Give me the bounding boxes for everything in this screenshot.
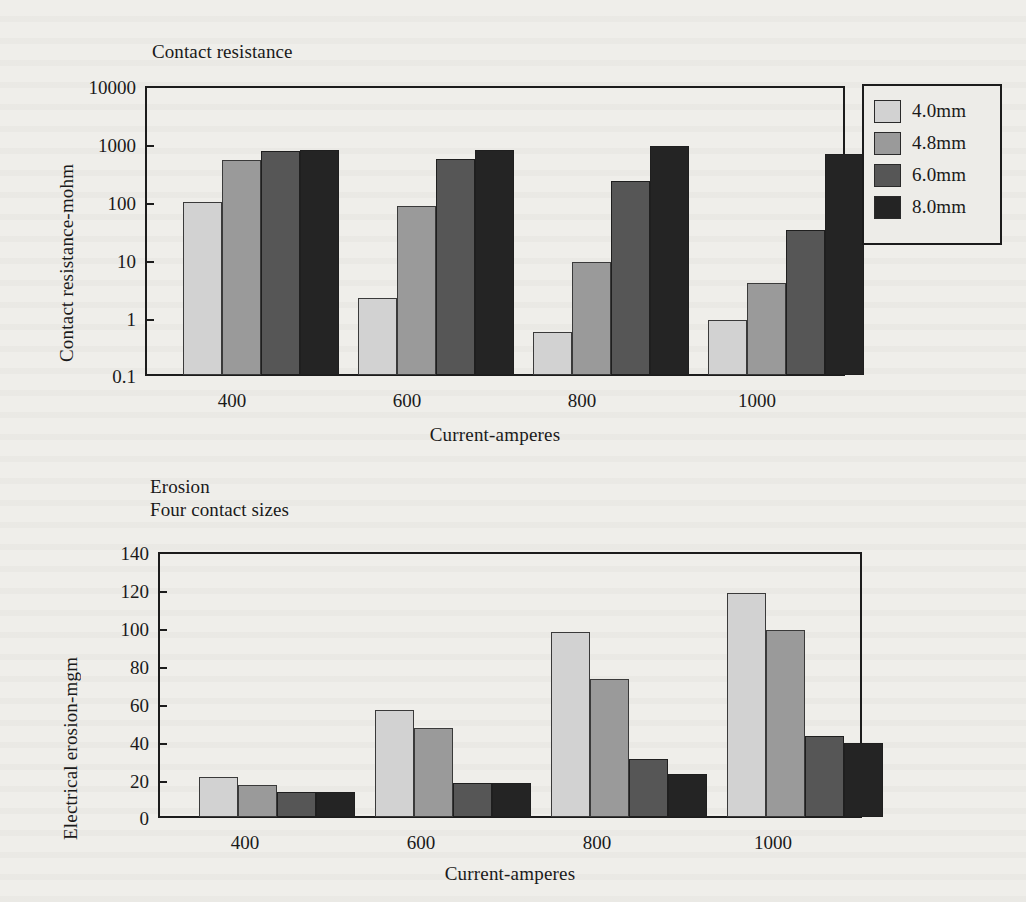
erosion-ytick-label-60: 60 bbox=[60, 695, 149, 717]
bar-600A-6.0mm bbox=[436, 159, 475, 375]
bar-600A-4.0mm bbox=[375, 710, 414, 817]
bar-800A-8.0mm bbox=[650, 146, 689, 375]
contact-size-legend: 4.0mm 4.8mm 6.0mm 8.0mm bbox=[862, 84, 1002, 245]
ytick-label-0.1: 0.1 bbox=[40, 366, 136, 388]
erosion-ytick-label-140: 140 bbox=[60, 543, 149, 565]
ytick-mark-1 bbox=[145, 319, 154, 321]
xtick-label-1000: 1000 bbox=[738, 390, 776, 412]
bar-800A-4.0mm bbox=[533, 332, 572, 375]
xtick-label-400: 400 bbox=[218, 390, 247, 412]
legend-row-8.0mm: 8.0mm bbox=[874, 191, 988, 223]
contact-resistance-figure: Contact resistance Contact resistance-mo… bbox=[0, 0, 1026, 455]
legend-label-8.0mm: 8.0mm bbox=[912, 196, 966, 218]
xtick-label-600: 600 bbox=[393, 390, 422, 412]
erosion-ytick-mark-40 bbox=[158, 743, 167, 745]
bar-600A-8.0mm bbox=[492, 783, 531, 817]
erosion-ytick-mark-20 bbox=[158, 781, 167, 783]
legend-label-6.0mm: 6.0mm bbox=[912, 164, 966, 186]
legend-swatch-4.8mm bbox=[874, 132, 901, 155]
legend-swatch-8.0mm bbox=[874, 196, 901, 219]
bar-400A-4.0mm bbox=[183, 202, 222, 375]
bar-1000A-8.0mm bbox=[844, 743, 883, 817]
erosion-ytick-label-120: 120 bbox=[60, 581, 149, 603]
ytick-label-100: 100 bbox=[40, 193, 136, 215]
bar-800A-4.0mm bbox=[551, 632, 590, 817]
legend-label-4.0mm: 4.0mm bbox=[912, 100, 966, 122]
erosion-ytick-mark-80 bbox=[158, 667, 167, 669]
bar-400A-8.0mm bbox=[316, 792, 355, 817]
bar-1000A-4.8mm bbox=[747, 283, 786, 375]
erosion-ytick-label-0: 0 bbox=[60, 808, 149, 830]
erosion-xtick-label-600: 600 bbox=[407, 832, 436, 854]
bar-1000A-6.0mm bbox=[786, 230, 825, 375]
bar-1000A-4.0mm bbox=[727, 593, 766, 817]
bar-800A-8.0mm bbox=[668, 774, 707, 817]
erosion-xtick-label-1000: 1000 bbox=[754, 832, 792, 854]
bar-1000A-4.8mm bbox=[766, 630, 805, 817]
bar-600A-4.8mm bbox=[414, 728, 453, 817]
ytick-mark-100 bbox=[145, 203, 154, 205]
ytick-mark-10 bbox=[145, 261, 154, 263]
legend-row-4.0mm: 4.0mm bbox=[874, 95, 988, 127]
legend-label-4.8mm: 4.8mm bbox=[912, 132, 966, 154]
erosion-ytick-mark-60 bbox=[158, 705, 167, 707]
bar-400A-6.0mm bbox=[277, 792, 316, 817]
bar-1000A-8.0mm bbox=[825, 154, 864, 375]
bar-1000A-4.0mm bbox=[708, 320, 747, 375]
erosion-ytick-label-20: 20 bbox=[60, 771, 149, 793]
erosion-figure: Erosion Four contact sizes Electrical er… bbox=[0, 455, 1026, 902]
erosion-x-axis-label: Current-amperes bbox=[158, 863, 862, 885]
legend-swatch-6.0mm bbox=[874, 164, 901, 187]
bar-800A-4.8mm bbox=[590, 679, 629, 817]
ytick-label-10000: 10000 bbox=[40, 77, 136, 99]
erosion-ytick-label-80: 80 bbox=[60, 657, 149, 679]
erosion-ytick-mark-100 bbox=[158, 629, 167, 631]
erosion-ytick-label-40: 40 bbox=[60, 733, 149, 755]
erosion-ytick-mark-120 bbox=[158, 591, 167, 593]
ytick-label-1: 1 bbox=[40, 309, 136, 331]
bar-400A-6.0mm bbox=[261, 151, 300, 375]
bar-600A-4.8mm bbox=[397, 206, 436, 375]
bar-600A-6.0mm bbox=[453, 783, 492, 817]
legend-row-4.8mm: 4.8mm bbox=[874, 127, 988, 159]
legend-row-6.0mm: 6.0mm bbox=[874, 159, 988, 191]
bar-800A-6.0mm bbox=[611, 181, 650, 375]
ytick-label-10: 10 bbox=[40, 251, 136, 273]
bar-400A-4.8mm bbox=[238, 785, 277, 817]
bar-400A-4.0mm bbox=[199, 777, 238, 817]
bar-800A-6.0mm bbox=[629, 759, 668, 817]
erosion-ytick-label-100: 100 bbox=[60, 619, 149, 641]
legend-swatch-4.0mm bbox=[874, 100, 901, 123]
erosion-xtick-label-400: 400 bbox=[231, 832, 260, 854]
bar-600A-4.0mm bbox=[358, 298, 397, 375]
ytick-mark-1000 bbox=[145, 145, 154, 147]
xtick-label-800: 800 bbox=[568, 390, 597, 412]
bar-1000A-6.0mm bbox=[805, 736, 844, 817]
erosion-plot-area: 140 120 100 80 60 40 20 0 400 600 800 10… bbox=[0, 455, 1026, 902]
ytick-label-1000: 1000 bbox=[40, 135, 136, 157]
bar-400A-8.0mm bbox=[300, 150, 339, 375]
bar-400A-4.8mm bbox=[222, 160, 261, 375]
contact-resistance-x-axis-label: Current-amperes bbox=[145, 424, 845, 446]
bar-800A-4.8mm bbox=[572, 262, 611, 375]
bar-600A-8.0mm bbox=[475, 150, 514, 375]
erosion-xtick-label-800: 800 bbox=[583, 832, 612, 854]
